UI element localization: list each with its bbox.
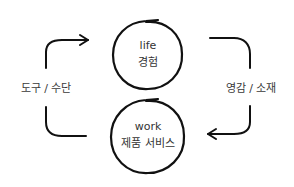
life-node: life 경험 (118, 37, 178, 71)
work-subtitle: 제품 서비스 (108, 135, 188, 152)
work-title: work (108, 118, 188, 135)
right-connector-top (210, 38, 250, 68)
left-edge-label: 도구 / 수단 (14, 82, 78, 95)
right-edge-label: 영감 / 소재 (218, 82, 284, 95)
work-node: work 제품 서비스 (108, 118, 188, 152)
life-title: life (118, 37, 178, 54)
left-connector-bottom (46, 107, 86, 136)
life-subtitle: 경험 (118, 54, 178, 71)
